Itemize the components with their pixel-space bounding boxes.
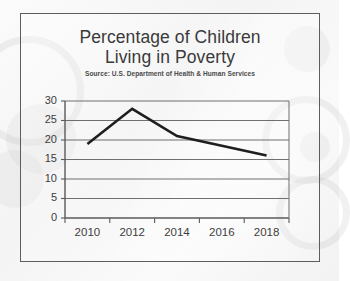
y-axis-tick-label: 0 <box>27 211 57 223</box>
x-axis-tick-label: 2016 <box>199 226 244 238</box>
data-series-line <box>87 109 266 156</box>
chart-frame: Percentage of Children Living in Poverty… <box>20 13 320 262</box>
x-axis-tick-label: 2012 <box>110 226 155 238</box>
y-axis-tick-label: 5 <box>27 191 57 203</box>
y-axis-tick-label: 10 <box>27 172 57 184</box>
y-axis-tick-label: 20 <box>27 133 57 145</box>
gridlines <box>65 101 289 199</box>
x-axis-tick-label: 2018 <box>244 226 289 238</box>
y-axis-tick-label: 15 <box>27 152 57 164</box>
x-axis-ticks <box>65 218 289 223</box>
plot-area: 051015202530 20102012201420162018 <box>21 14 321 263</box>
x-axis-tick-label: 2014 <box>155 226 200 238</box>
y-axis-tick-label: 25 <box>27 113 57 125</box>
x-axis-tick-label: 2010 <box>65 226 110 238</box>
y-axis-tick-label: 30 <box>27 94 57 106</box>
